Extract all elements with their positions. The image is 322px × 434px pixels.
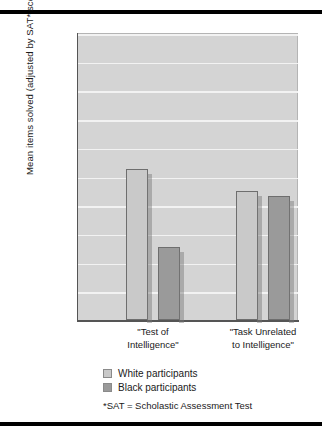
bar <box>268 196 290 320</box>
plot-area <box>78 33 298 320</box>
gridline <box>78 264 298 266</box>
gridline <box>78 235 298 237</box>
bar-shadow <box>257 196 262 323</box>
x-axis-tick-label: "Task Unrelatedto Intelligence" <box>208 326 318 351</box>
bottom-rule <box>0 422 322 426</box>
gridline <box>78 292 298 294</box>
footnote: *SAT = Scholastic Assessment Test <box>103 400 252 411</box>
x-axis-tick-labels: "Test ofIntelligence""Task Unrelatedto I… <box>78 326 298 366</box>
bar-chart: Mean items solved (adjusted by SAT* scor… <box>0 14 322 420</box>
gridline <box>78 149 298 151</box>
legend-item-black: Black participants <box>103 380 197 394</box>
gridline <box>78 91 298 93</box>
gridline <box>78 34 298 36</box>
legend-swatch-white-icon <box>103 369 112 378</box>
legend-swatch-black-icon <box>103 383 112 392</box>
legend: White participants Black participants <box>103 366 197 394</box>
bar-shadow <box>289 201 294 323</box>
x-axis-tick-label: "Test ofIntelligence" <box>98 326 208 351</box>
y-axis-title: Mean items solved (adjusted by SAT* scor… <box>24 0 35 205</box>
gridline <box>78 178 298 180</box>
bar-shadow <box>147 174 152 323</box>
bar <box>158 247 180 320</box>
gridlines <box>78 34 298 321</box>
gridline <box>78 63 298 65</box>
bar <box>126 169 148 320</box>
gridline <box>78 120 298 122</box>
bar-shadow <box>179 252 184 323</box>
gridline <box>78 206 298 208</box>
bar <box>236 191 258 320</box>
legend-label-black: Black participants <box>118 382 196 393</box>
legend-item-white: White participants <box>103 366 197 380</box>
legend-label-white: White participants <box>118 368 197 379</box>
